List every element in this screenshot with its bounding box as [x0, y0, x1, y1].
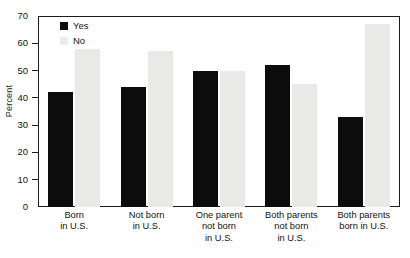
bars-layer [38, 16, 400, 207]
x-axis-label-line: in U.S. [249, 233, 333, 244]
legend-swatch-yes [60, 22, 68, 30]
bar-yes-4 [338, 117, 363, 207]
bar-no-2 [220, 71, 245, 207]
bar-chart: Percent 706050403020100 Yes No Bornin U.… [0, 0, 410, 258]
x-axis-labels: Bornin U.S.Not bornin U.S.One parentnot … [38, 210, 400, 256]
bar-no-1 [148, 51, 173, 207]
legend-item-no: No [60, 34, 89, 48]
y-tick-label: 70 [0, 9, 28, 23]
bar-no-3 [292, 84, 317, 207]
bar-yes-1 [121, 87, 146, 207]
legend-label-no: No [73, 36, 85, 46]
y-tick-label: 40 [0, 91, 28, 105]
y-tick-label: 10 [0, 173, 28, 187]
chart-legend: Yes No [60, 19, 89, 48]
y-tick-label: 30 [0, 118, 28, 132]
y-tick-label: 60 [0, 36, 28, 50]
bar-yes-2 [193, 71, 218, 207]
bar-yes-0 [48, 92, 73, 207]
x-axis-label-4: Both parentsborn in U.S. [322, 210, 406, 233]
x-axis-label-line: born in U.S. [322, 221, 406, 232]
legend-item-yes: Yes [60, 19, 89, 33]
bar-yes-3 [265, 65, 290, 207]
y-tick-label: 0 [0, 200, 28, 214]
y-tick-label: 20 [0, 145, 28, 159]
bar-no-0 [75, 49, 100, 207]
y-tick-label: 50 [0, 64, 28, 78]
legend-label-yes: Yes [73, 21, 89, 31]
bar-no-4 [365, 24, 390, 207]
legend-swatch-no [60, 37, 68, 45]
x-axis-label-line: Both parents [322, 210, 406, 221]
